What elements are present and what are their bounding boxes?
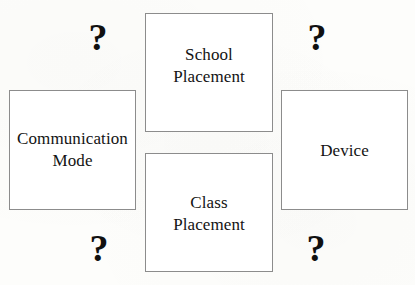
question-mark-icon-top-right: ? [300,18,334,56]
node-device[interactable]: Device [281,90,408,210]
node-school-placement-label: School Placement [146,44,272,88]
node-school-placement[interactable]: School Placement [145,13,273,132]
node-communication-mode[interactable]: Communication Mode [9,90,136,210]
diagram-canvas: Communication Mode School Placement Clas… [0,0,415,285]
question-mark-icon-bottom-right: ? [299,229,333,267]
question-mark-icon-top-left: ? [81,18,115,56]
node-class-placement-label: Class Placement [146,192,272,236]
question-mark-icon-bottom-left: ? [82,229,116,267]
node-device-label: Device [282,140,407,162]
node-communication-mode-label: Communication Mode [5,128,140,172]
node-class-placement[interactable]: Class Placement [145,153,273,272]
